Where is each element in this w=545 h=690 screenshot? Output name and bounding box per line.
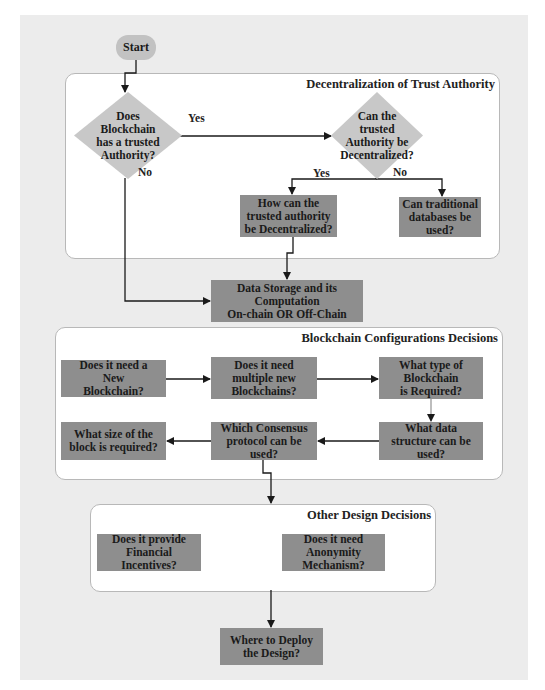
- edge-label-d2-yes: Yes: [313, 167, 330, 179]
- box-data-storage: Data Storage and its Computation On-chai…: [211, 280, 363, 322]
- box-anonymity: Does it need Anonymity Mechanism?: [282, 534, 385, 571]
- edge-label-d1-yes: Yes: [188, 112, 205, 124]
- box-financial-incentives: Does it provide Financial Incentives?: [97, 534, 201, 571]
- box-consensus: Which Consensus protocol can be used?: [211, 422, 317, 460]
- box-blockchain-type: What type of Blockchain is Required?: [379, 357, 483, 399]
- box-data-storage-line3: On-chain OR Off-Chain: [227, 308, 347, 321]
- box-multiple-blockchains: Does it need multiple new Blockchains?: [211, 357, 317, 399]
- box-traditional-db: Can traditional databases be used?: [399, 197, 481, 237]
- start-terminal: Start: [116, 35, 156, 60]
- decision-trusted-authority-text: Does Blockchain has a trusted Authority?: [74, 92, 182, 179]
- box-how-decentralize: How can the trusted authority be Decentr…: [240, 195, 337, 237]
- decision-trusted-authority: Does Blockchain has a trusted Authority?: [74, 92, 182, 179]
- box-new-blockchain: Does it need a New Blockchain?: [61, 360, 166, 397]
- edge-label-d1-no: No: [138, 166, 152, 178]
- box-data-structure: What data structure can be used?: [379, 422, 483, 460]
- box-block-size: What size of the block is required?: [61, 422, 166, 460]
- decision-can-decentralize: Can the trusted Authority be Decentraliz…: [331, 92, 423, 179]
- decision-can-decentralize-text: Can the trusted Authority be Decentraliz…: [331, 92, 423, 179]
- box-deploy: Where to Deploy the Design?: [220, 628, 323, 665]
- edge-label-d2-no: No: [393, 166, 407, 178]
- box-data-storage-line2: Computation: [254, 295, 319, 308]
- box-data-storage-line1: Data Storage and its: [237, 282, 337, 295]
